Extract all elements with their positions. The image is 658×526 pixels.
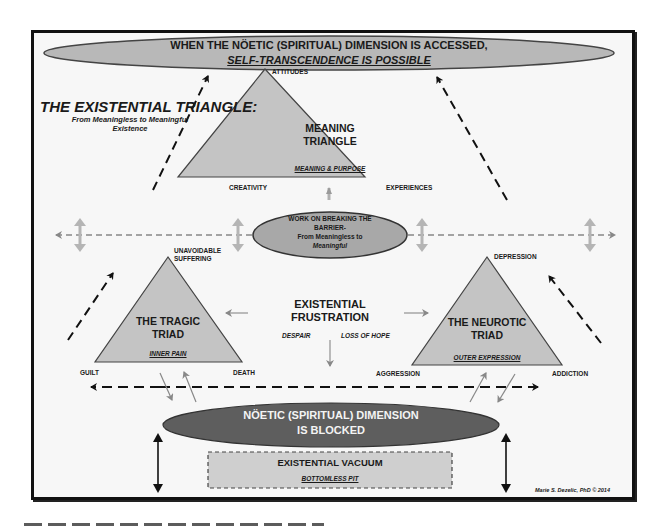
barrier-line2: BARRIER-	[280, 224, 380, 231]
label-addiction: ADDICTION	[552, 370, 588, 377]
label-death: DEATH	[233, 369, 255, 376]
barrier-line3: From Meaningless to	[280, 233, 380, 240]
meaning-triangle-title-line1: MEANING	[280, 122, 380, 134]
label-unavoidable: UNAVOIDABLE	[174, 247, 221, 254]
credit-text: Marie S. Dezelic, PhD © 2014	[535, 487, 610, 493]
meaning-triangle-title-line2: TRIANGLE	[280, 135, 380, 147]
diagram-graphics	[0, 0, 658, 526]
frustration-line2: FRUSTRATION	[280, 311, 380, 324]
tragic-triad-shape	[95, 257, 242, 362]
top-banner-line1: WHEN THE NÖETIC (SPIRITUAL) DIMENSION IS…	[0, 38, 658, 53]
label-loss-of-hope: LOSS OF HOPE	[341, 332, 390, 339]
label-despair: DESPAIR	[282, 332, 310, 339]
top-banner-line2: SELF-TRANSCENDENCE IS POSSIBLE	[0, 53, 658, 68]
label-experiences: EXPERIENCES	[386, 184, 432, 191]
neurotic-triad-title-line1: THE NEUROTIC	[437, 316, 537, 328]
diagram-subtitle-line2: Existence	[50, 125, 210, 134]
barrier-line1: WORK ON BREAKING THE	[280, 215, 380, 222]
neurotic-triad-subtitle: OUTER EXPRESSION	[437, 354, 537, 361]
diagram-title: THE EXISTENTIAL TRIANGLE:	[40, 98, 230, 115]
barrier-line4: Meaningful	[280, 242, 380, 249]
blocked-line2: IS BLOCKED	[231, 424, 431, 437]
neurotic-triad-shape	[412, 257, 562, 365]
tragic-triad-title-line1: THE TRAGIC	[118, 315, 218, 327]
tragic-triad-title-line2: TRIAD	[118, 328, 218, 340]
frustration-line1: EXISTENTIAL	[280, 298, 380, 311]
label-creativity: CREATIVITY	[229, 184, 267, 191]
meaning-triangle-subtitle: MEANING & PURPOSE	[280, 165, 380, 172]
tragic-triad-subtitle: INNER PAIN	[118, 350, 218, 357]
vacuum-title: EXISTENTIAL VACUUM	[230, 458, 430, 469]
label-depression: DEPRESSION	[494, 253, 537, 260]
caption-clipped	[24, 521, 324, 526]
label-guilt: GUILT	[80, 369, 99, 376]
vacuum-subtitle: BOTTOMLESS PIT	[230, 475, 430, 482]
blocked-line1: NÖETIC (SPIRITUAL) DIMENSION	[231, 409, 431, 422]
label-attitudes: ATTITUDES	[272, 68, 308, 75]
label-suffering: SUFFERING	[174, 255, 212, 262]
label-aggression: AGGRESSION	[376, 370, 420, 377]
neurotic-triad-title-line2: TRIAD	[437, 329, 537, 341]
